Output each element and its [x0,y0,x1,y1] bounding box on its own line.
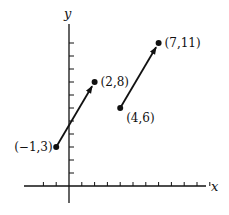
x-axis-label: x [211,179,219,194]
start-point-label: (−1,3) [14,140,53,154]
vectors: (−1,3)(2,8)(4,6)(7,11) [14,36,200,154]
y-axis-label: y [63,6,72,21]
y-ticks [69,43,74,173]
coordinate-diagram: x y (−1,3)(2,8)(4,6)(7,11) [0,0,229,215]
end-point-label: (7,11) [165,36,201,50]
start-point [117,105,123,111]
start-point-label: (4,6) [126,111,154,125]
diagram-svg: x y (−1,3)(2,8)(4,6)(7,11) [0,0,229,215]
end-point [156,40,162,46]
vector-1: (−1,3)(2,8) [14,75,129,154]
end-point [92,79,98,85]
vector-2: (4,6)(7,11) [117,36,200,125]
vector-arrow [56,86,92,147]
start-point [53,144,59,150]
end-point-label: (2,8) [101,75,129,89]
